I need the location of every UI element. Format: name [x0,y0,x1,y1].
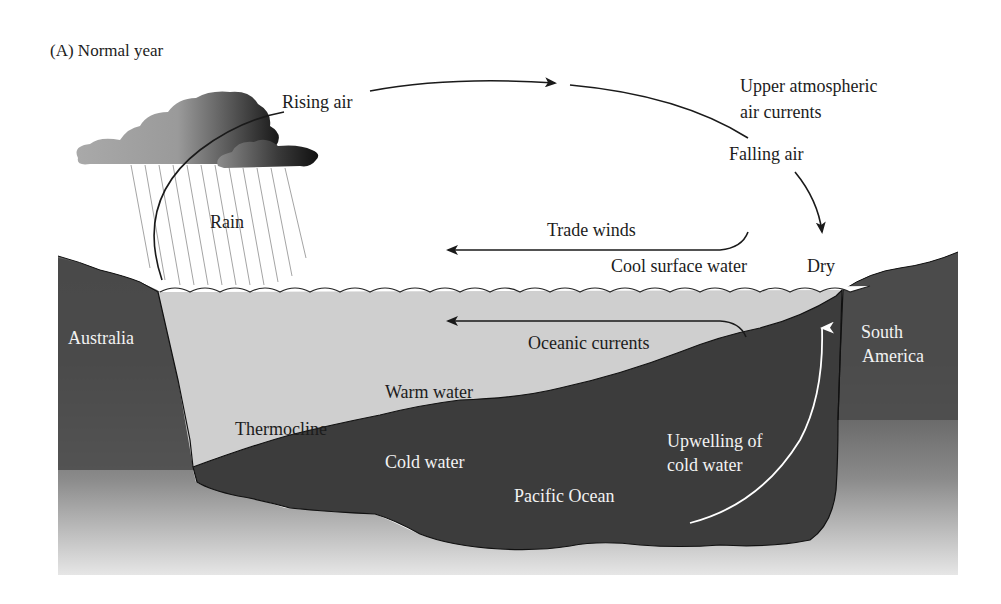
oceanic-currents-label: Oceanic currents [528,333,649,353]
australia-label: Australia [68,328,134,348]
el-nino-normal-year-diagram: (A) Normal year Rising air Upper atmosph… [0,0,1001,604]
dry-label: Dry [807,256,835,276]
rain-label: Rain [210,212,244,232]
pacific-ocean-label: Pacific Ocean [514,486,614,506]
thermocline-label: Thermocline [235,419,327,439]
south-america-label-line1: South [861,322,903,342]
upper-currents-label-line1: Upper atmospheric [740,76,877,96]
falling-air-label: Falling air [729,144,804,164]
upwelling-label-line1: Upwelling of [667,431,762,451]
falling-air-arrow [795,172,822,232]
trade-winds-label: Trade winds [547,220,636,240]
upwelling-label-line2: cold water [667,455,742,475]
upper-currents-label-line2: air currents [740,102,821,122]
diagram-title: (A) Normal year [50,41,164,60]
cold-water-label: Cold water [385,452,464,472]
upper-air-current-arrow [370,81,555,91]
warm-water-label: Warm water [385,382,473,402]
cool-surface-water-label: Cool surface water [611,256,747,276]
rising-air-label: Rising air [282,92,353,112]
south-america-label-line2: America [862,346,924,366]
